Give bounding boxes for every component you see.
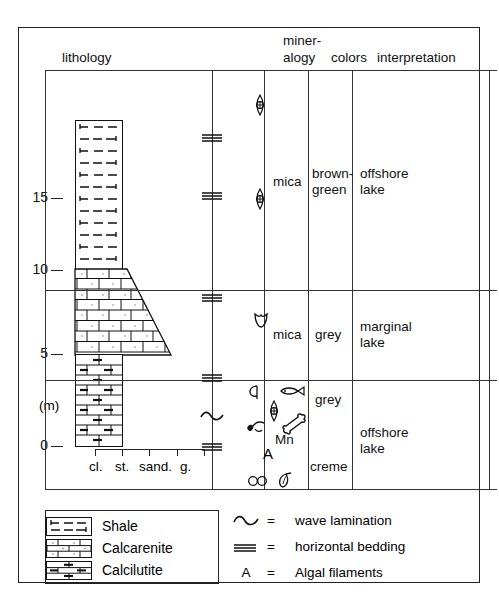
row-3-color-line1: grey: [315, 392, 341, 408]
algal-filaments-icon: A: [263, 445, 273, 462]
row-2-color-line1: grey: [315, 327, 341, 343]
horizontal-bedding-icon: [233, 543, 259, 553]
row-3-interpretation-line2: lake: [360, 441, 385, 457]
facies-table: mica brown- green offshore lake mica gre…: [45, 70, 497, 490]
plant-fragment-icon: [246, 420, 266, 434]
row-1-interpretation-line1: offshore: [360, 166, 409, 182]
row-2-mineralogy: mica: [273, 327, 302, 343]
row-1-mineralogy: mica: [273, 174, 302, 190]
shell-icon: [248, 385, 261, 401]
legend-label-algal-filaments: Algal filaments: [295, 565, 383, 580]
row-2-interpretation-line2: lake: [360, 335, 385, 351]
row-2-interpretation-line1: marginal: [360, 319, 412, 335]
legend-equals: =: [267, 539, 275, 554]
bivalve-icon: [253, 311, 269, 329]
fish-icon: [279, 385, 305, 397]
row-1-color-line1: brown-: [312, 166, 353, 182]
ostracod-icon: [267, 400, 281, 422]
horizontal-bedding-icon: [201, 191, 223, 201]
seed-icon: [277, 472, 295, 490]
ooids-icon: [247, 475, 269, 487]
bone-icon: [281, 413, 307, 439]
legend-label-calcarenite: Calcarenite: [102, 539, 173, 558]
lithology-legend: Shale Calcarenite: [45, 510, 219, 584]
ostracod-icon: [253, 188, 267, 210]
shale-pattern-swatch: [46, 517, 92, 536]
ostracod-icon: [253, 94, 267, 116]
row-3-interpretation-line1: offshore: [360, 425, 409, 441]
header-mineralogy-line2: alogy: [283, 50, 315, 65]
legend-equals: =: [267, 565, 275, 580]
horizontal-bedding-icon: [201, 133, 223, 143]
wave-lamination-icon: [200, 410, 224, 422]
legend-label-calcilutite: Calcilutite: [102, 561, 163, 580]
header-lithology: lithology: [62, 50, 112, 65]
row-1-color-line2: green: [312, 182, 347, 198]
figure-frame: lithology miner- alogy colors interpreta…: [18, 27, 480, 583]
legend-equals: =: [267, 513, 275, 528]
calcarenite-pattern-swatch: [46, 539, 92, 558]
header-colors: colors: [331, 50, 367, 65]
legend-label-shale: Shale: [102, 517, 138, 536]
horizontal-bedding-icon: [201, 442, 223, 452]
legend-label-wave-lamination: wave lamination: [295, 513, 392, 528]
calcilutite-pattern-swatch: [46, 561, 92, 580]
header-mineralogy-line1: miner-: [283, 33, 321, 48]
row-3-color-line2: creme: [310, 459, 348, 475]
row-1-interpretation-line2: lake: [360, 182, 385, 198]
horizontal-bedding-icon: [201, 293, 223, 303]
header-interpretation: interpretation: [377, 50, 456, 65]
algal-filaments-icon: A: [233, 565, 259, 580]
horizontal-bedding-icon: [201, 373, 223, 383]
legend-label-horizontal-bedding: horizontal bedding: [295, 539, 405, 554]
wave-lamination-icon: [233, 514, 259, 527]
